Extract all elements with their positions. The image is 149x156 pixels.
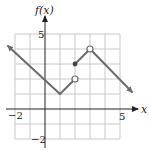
tick-label-x-neg2: −2 [8, 110, 23, 121]
open-point-3-4 [87, 46, 93, 52]
x-axis-label: x [141, 103, 148, 116]
tick-label-x-5: 5 [119, 111, 125, 122]
tick-label-y-5: 5 [38, 29, 44, 40]
function-curve [8, 46, 132, 94]
function-graph: f(x) x −2 5 5 −2 [0, 0, 149, 156]
open-point-2-2 [72, 76, 78, 82]
closed-point-2-3 [73, 62, 78, 67]
tick-label-y-neg2: −2 [31, 134, 46, 145]
y-axis-label: f(x) [34, 4, 54, 17]
